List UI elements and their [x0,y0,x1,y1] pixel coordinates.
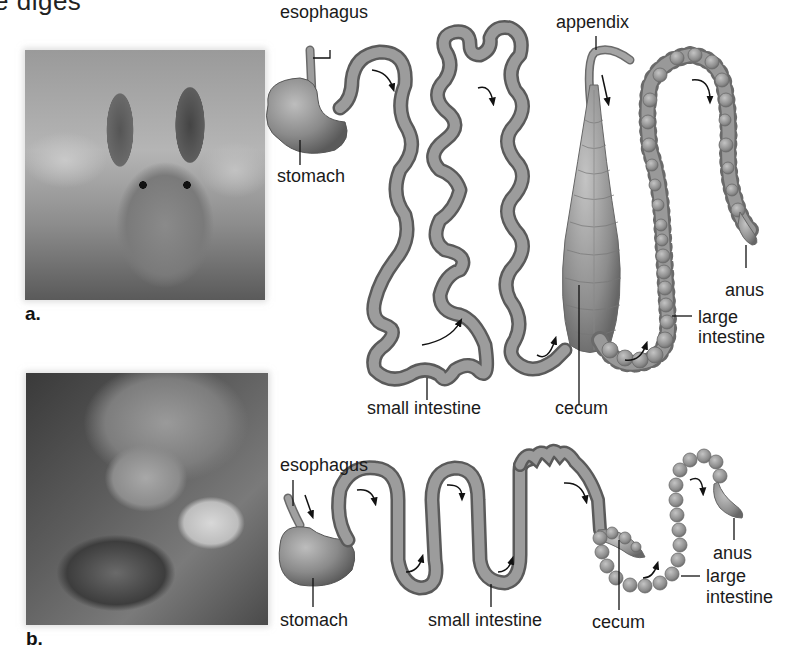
label-stomach-a: stomach [277,166,345,186]
label-cecum-a: cecum [555,398,608,418]
label-cecum-b: cecum [592,612,645,632]
label-appendix-a: appendix [556,12,629,32]
rabbit-digestive-tract [267,27,757,405]
label-large-intestine-b-line1: large [706,566,746,586]
label-small-intestine-b: small intestine [428,610,542,630]
label-large-intestine-b-line2: intestine [706,587,773,607]
label-esophagus-a: esophagus [280,2,368,22]
label-anus-b: anus [713,543,752,563]
label-large-intestine-a-line2: intestine [698,327,765,347]
label-esophagus-b: esophagus [280,455,368,475]
digestive-tract-diagram [0,0,810,659]
label-anus-a: anus [725,280,764,300]
label-small-intestine-a: small intestine [367,398,481,418]
label-large-intestine-a-line1: large [698,307,738,327]
label-stomach-b: stomach [280,610,348,630]
